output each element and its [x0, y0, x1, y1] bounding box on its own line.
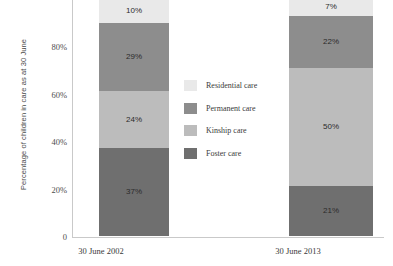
bar-segment-value-label: 50% [323, 123, 339, 131]
stacked-bar-chart: Percentage of children in care as at 30 … [0, 0, 393, 266]
bar-stack: 7%22%50%21% [289, 0, 373, 236]
legend-swatch [184, 80, 197, 91]
y-axis-tick-label: 20% [21, 185, 67, 195]
x-axis-tick-label: 30 June 2002 [41, 246, 161, 256]
legend-swatch [184, 148, 197, 159]
legend-label: Foster care [206, 149, 241, 158]
bar-segment: 10% [99, 0, 169, 23]
legend-swatch [184, 103, 197, 114]
y-axis-tick-label: 60% [21, 90, 67, 100]
legend-label: Kinship care [206, 126, 247, 135]
bar-segment-value-label: 37% [126, 188, 142, 196]
bar-segment: 7% [289, 0, 373, 16]
legend-item: Kinship care [184, 123, 294, 138]
legend-label: Residential care [206, 81, 257, 90]
bar-segment: 22% [289, 16, 373, 68]
bar-segment-value-label: 22% [323, 38, 339, 46]
bar-stack: 10%29%24%37% [99, 0, 169, 236]
bar-segment: 37% [99, 148, 169, 236]
legend-item: Foster care [184, 146, 294, 161]
bar-segment-value-label: 24% [126, 116, 142, 124]
bar-segment-value-label: 29% [126, 53, 142, 61]
y-axis-title: Percentage of children in care as at 30 … [19, 0, 28, 230]
legend-label: Permanent care [206, 104, 256, 113]
bar-segment-value-label: 21% [323, 207, 339, 215]
legend: Residential carePermanent careKinship ca… [184, 78, 294, 168]
bar-segment-value-label: 10% [126, 7, 142, 15]
legend-item: Residential care [184, 78, 294, 93]
bar-segment: 21% [289, 186, 373, 236]
y-axis-tick-label: 80% [21, 42, 67, 52]
y-axis-tick-label: 40% [21, 137, 67, 147]
bar-segment: 24% [99, 91, 169, 148]
legend-item: Permanent care [184, 101, 294, 116]
bar-segment-value-label: 7% [325, 3, 337, 11]
legend-swatch [184, 125, 197, 136]
bar-segment: 29% [99, 23, 169, 92]
y-axis-tick-label: 0 [21, 232, 67, 242]
x-axis-tick-label: 30 June 2013 [238, 246, 358, 256]
bar-segment: 50% [289, 68, 373, 187]
